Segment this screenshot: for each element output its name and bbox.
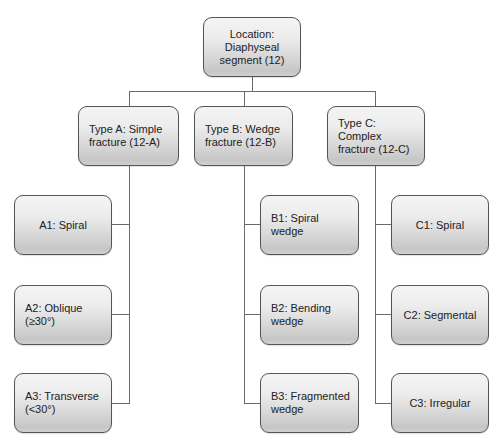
node-label: Type A: Simple fracture (12-A) (89, 123, 162, 149)
node-a1: A1: Spiral (14, 195, 112, 255)
node-b3: B3: Fragmented wedge (260, 373, 359, 433)
connector-b1 (244, 224, 260, 225)
node-b1: B1: Spiral wedge (260, 195, 359, 255)
connector-type-c-drop (375, 91, 376, 106)
node-label: Location: Diaphyseal segment (12) (220, 28, 285, 67)
node-label: B2: Bending wedge (271, 302, 331, 328)
connector-a3 (112, 403, 129, 404)
connector-a1 (112, 224, 129, 225)
connector-root-stem (252, 76, 253, 91)
node-a2: A2: Oblique (≥30°) (14, 285, 112, 345)
node-type-c: Type C: Complex fracture (12-C) (327, 106, 425, 166)
connector-c2 (375, 314, 391, 315)
node-label: Type C: Complex fracture (12-C) (338, 117, 418, 156)
node-type-a: Type A: Simple fracture (12-A) (78, 106, 179, 166)
node-label: B3: Fragmented wedge (271, 390, 350, 416)
connector-a2 (112, 314, 129, 315)
node-b2: B2: Bending wedge (260, 285, 359, 345)
connector-type-a-drop (129, 91, 130, 106)
connector-c1 (375, 224, 391, 225)
node-label: A1: Spiral (39, 219, 87, 232)
node-label: C3: Irregular (409, 397, 470, 410)
connector-type-b-spine (244, 166, 245, 404)
node-root-location: Location: Diaphyseal segment (12) (203, 17, 301, 77)
node-label: A2: Oblique (≥30°) (25, 302, 82, 328)
node-label: B1: Spiral wedge (271, 212, 352, 238)
node-type-b: Type B: Wedge fracture (12-B) (194, 106, 293, 166)
node-label: C1: Spiral (416, 219, 464, 232)
connector-b2 (244, 314, 260, 315)
node-label: Type B: Wedge fracture (12-B) (205, 123, 280, 149)
connector-type-b-drop (244, 91, 245, 106)
node-label: A3: Transverse (<30°) (25, 390, 99, 416)
connector-c3 (375, 403, 391, 404)
node-c1: C1: Spiral (391, 195, 489, 255)
connector-b3 (244, 403, 260, 404)
connector-type-a-spine (129, 166, 130, 404)
node-c2: C2: Segmental (391, 285, 489, 345)
connector-type-c-spine (375, 166, 376, 404)
connector-types-horizontal (129, 91, 376, 92)
node-c3: C3: Irregular (391, 373, 489, 433)
node-label: C2: Segmental (404, 309, 477, 322)
fracture-classification-diagram: Location: Diaphyseal segment (12) Type A… (0, 0, 502, 444)
node-a3: A3: Transverse (<30°) (14, 373, 112, 433)
